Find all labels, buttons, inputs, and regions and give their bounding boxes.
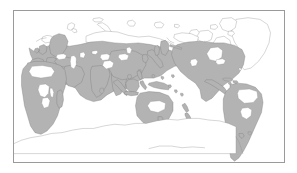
tarim-basin [100,54,110,61]
figure-container [0,0,297,173]
map-frame [13,10,285,163]
sahara-interior [29,66,55,79]
world-map [14,11,284,162]
great-lakes [216,59,226,65]
